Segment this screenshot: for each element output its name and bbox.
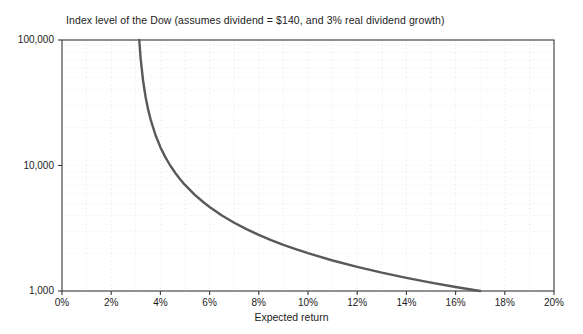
y-tick-label: 100,000 [2,34,54,45]
y-tick-label: 10,000 [2,160,54,171]
x-tick-label: 8% [239,297,279,308]
x-tick-label: 12% [337,297,377,308]
y-tick-label: 1,000 [2,285,54,296]
x-tick-label: 20% [534,297,574,308]
x-tick-label: 4% [140,297,180,308]
x-axis-title: Expected return [0,311,583,323]
x-tick-label: 6% [190,297,230,308]
chart-figure: Index level of the Dow (assumes dividend… [0,0,583,334]
x-tick-label: 0% [42,297,82,308]
x-tick-label: 14% [386,297,426,308]
x-tick-label: 2% [91,297,131,308]
plot-canvas [0,0,583,334]
x-tick-label: 18% [485,297,525,308]
x-tick-label: 10% [288,297,328,308]
x-tick-label: 16% [436,297,476,308]
